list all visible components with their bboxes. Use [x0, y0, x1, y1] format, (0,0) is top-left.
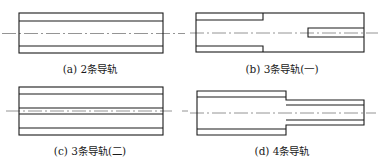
outline-a: [19, 13, 163, 53]
figure-c-three-rails-two: [6, 87, 188, 135]
caption-a: (a) 2条导轨: [63, 63, 117, 75]
rail-b-bottom-left: [196, 46, 263, 52]
caption-d: (d) 4条导轨: [255, 145, 310, 157]
figure-d-four-rails: [190, 91, 376, 135]
caption-b: (b) 3条导轨(一): [245, 63, 318, 75]
rail-b-top-left: [196, 13, 263, 20]
caption-c: (c) 3条导轨(二): [54, 145, 126, 157]
rail-b-center-right: [308, 28, 364, 37]
figure-b-three-rails-one: [190, 13, 378, 52]
guide-rail-diagram: [0, 0, 380, 165]
figure-a-two-rails: [2, 13, 185, 53]
